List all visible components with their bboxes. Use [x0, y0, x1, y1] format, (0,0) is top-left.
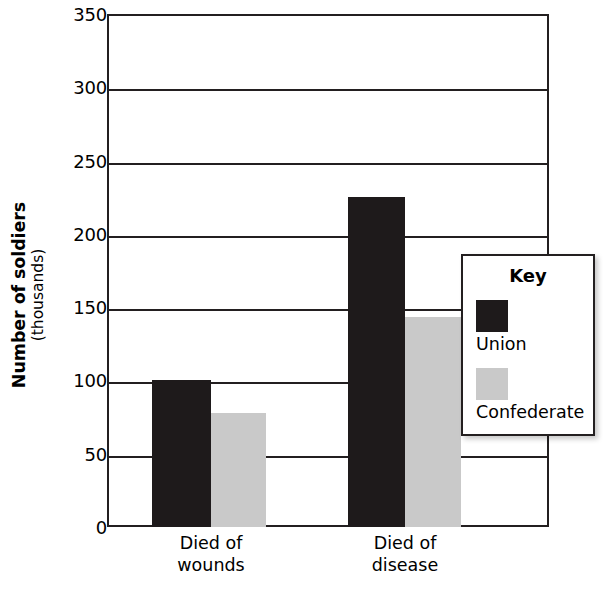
y-axis-tick-labels: 050100150200250300350 — [51, 0, 107, 590]
gridline — [109, 163, 547, 165]
y-axis-title-sub: (thousands) — [29, 202, 46, 388]
legend-label-union: Union — [476, 335, 527, 354]
y-axis-title-main: Number of soldiers — [10, 202, 30, 388]
gridline — [109, 89, 547, 91]
gridline — [109, 456, 547, 458]
y-axis-tick-label: 300 — [61, 77, 107, 98]
y-axis-tick-label: 0 — [61, 517, 107, 538]
y-axis-tick-label: 250 — [61, 150, 107, 171]
y-axis-tick-label: 50 — [61, 443, 107, 464]
y-axis-tick-label: 350 — [61, 4, 107, 25]
y-axis-tick-label: 100 — [61, 370, 107, 391]
x-axis-category-label-line: wounds — [141, 555, 281, 577]
x-axis-category-labels: Died ofwoundsDied ofdisease — [107, 533, 549, 590]
chart-figure: Number of soldiers (thousands) 050100150… — [0, 0, 609, 590]
legend-swatch-union-icon — [476, 300, 508, 332]
x-axis-category-label-line: disease — [335, 555, 475, 577]
legend-label-confederate: Confederate — [476, 403, 584, 422]
y-axis-title: Number of soldiers (thousands) — [0, 0, 56, 590]
x-axis-category-label: Died ofdisease — [335, 533, 475, 576]
y-axis-tick-label: 150 — [61, 297, 107, 318]
x-axis-category-label-line: Died of — [141, 533, 281, 555]
chart-legend: Key Union Confederate — [461, 254, 595, 436]
legend-entry-union: Union — [476, 300, 527, 354]
legend-entry-confederate: Confederate — [476, 368, 584, 422]
x-axis-category-label-line: Died of — [335, 533, 475, 555]
gridline — [109, 236, 547, 238]
legend-title: Key — [463, 265, 593, 286]
x-axis-category-label: Died ofwounds — [141, 533, 281, 576]
y-axis-tick-label: 200 — [61, 223, 107, 244]
legend-swatch-confederate-icon — [476, 368, 508, 400]
